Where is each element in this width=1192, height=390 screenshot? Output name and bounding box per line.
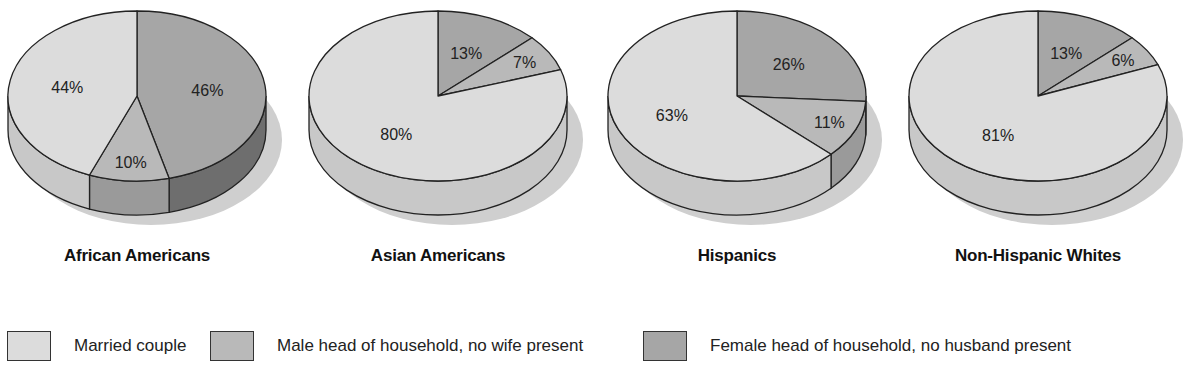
legend-swatch-male-head: [210, 331, 254, 361]
legend-item-male-head: Male head of household, no wife present: [210, 331, 583, 361]
pie-label-male: 7%: [513, 54, 536, 71]
legend-item-female-head: Female head of household, no husband pre…: [643, 331, 1071, 361]
pie-label-female: 13%: [450, 45, 482, 62]
pie-label-male: 11%: [814, 114, 845, 131]
legend-swatch-female-head: [643, 331, 687, 361]
pie-label-married: 63%: [656, 107, 688, 124]
legend-label-married: Married couple: [74, 336, 186, 356]
legend: Married couple Male head of household, n…: [0, 331, 1192, 371]
legend-label-male-head: Male head of household, no wife present: [277, 336, 583, 356]
pie-charts: 46%10%44%13%7%80%26%11%63%13%6%81%: [0, 0, 1192, 240]
pie-label-male: 10%: [115, 154, 147, 171]
pie-label-female: 13%: [1050, 45, 1082, 62]
legend-label-female-head: Female head of household, no husband pre…: [710, 336, 1071, 356]
pie-label-married: 80%: [380, 126, 412, 143]
pie-1: 13%7%80%: [309, 11, 583, 225]
pie-3: 13%6%81%: [909, 11, 1183, 225]
pie-label-male: 6%: [1111, 52, 1134, 69]
pie-title-african-americans: African Americans: [7, 246, 267, 266]
pie-2: 26%11%63%: [608, 11, 882, 225]
pie-label-female: 26%: [773, 56, 805, 73]
legend-item-married: Married couple: [7, 331, 186, 361]
legend-swatch-married: [7, 331, 51, 361]
pie-label-female: 46%: [191, 82, 223, 99]
pie-label-married: 44%: [51, 79, 83, 96]
pie-0: 46%10%44%: [8, 11, 282, 225]
pie-title-hispanics: Hispanics: [607, 246, 867, 266]
pie-title-non-hispanic-whites: Non-Hispanic Whites: [908, 246, 1168, 266]
pie-title-asian-americans: Asian Americans: [308, 246, 568, 266]
pie-label-married: 81%: [982, 127, 1014, 144]
